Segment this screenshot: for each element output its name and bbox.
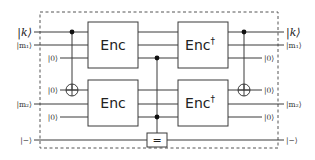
svg-text:|0⟩: |0⟩ <box>264 86 274 95</box>
control-dot <box>155 56 160 61</box>
svg-text:|0⟩: |0⟩ <box>48 113 58 122</box>
svg-text:|−⟩: |−⟩ <box>20 136 32 145</box>
svg-text:|m₂⟩: |m₂⟩ <box>286 100 302 109</box>
left-cnot <box>66 30 78 96</box>
equality-check: = <box>147 56 167 147</box>
enc-gate-top: Enc <box>88 22 138 68</box>
enc-dagger-gate-top: Enc† <box>178 22 228 68</box>
svg-text:Enc: Enc <box>100 37 125 53</box>
right-cnot <box>238 30 250 96</box>
quantum-circuit-diagram: Enc Enc = Enc† Enc† |k⟩ |m₁⟩ |0⟩ |0⟩ |m₂… <box>0 0 315 160</box>
svg-text:|m₁⟩: |m₁⟩ <box>286 41 302 50</box>
output-labels: |k⟩ |m₁⟩ |0⟩ |0⟩ |m₂⟩ |0⟩ |−⟩ <box>264 26 302 145</box>
svg-text:|0⟩: |0⟩ <box>264 113 274 122</box>
svg-text:|k⟩: |k⟩ <box>286 26 301 40</box>
svg-text:Enc: Enc <box>100 95 125 111</box>
control-dot <box>70 30 75 35</box>
enc-gate-bottom: Enc <box>88 80 138 126</box>
svg-text:|m₁⟩: |m₁⟩ <box>16 41 32 50</box>
svg-text:|m₂⟩: |m₂⟩ <box>16 100 32 109</box>
svg-text:|k⟩: |k⟩ <box>17 26 32 40</box>
enc-dagger-gate-bottom: Enc† <box>178 80 228 126</box>
svg-text:|0⟩: |0⟩ <box>48 54 58 63</box>
input-labels: |k⟩ |m₁⟩ |0⟩ |0⟩ |m₂⟩ |0⟩ |−⟩ <box>16 26 58 145</box>
svg-text:|0⟩: |0⟩ <box>264 54 274 63</box>
svg-text:|0⟩: |0⟩ <box>48 86 58 95</box>
control-dot <box>155 115 160 120</box>
svg-text:=: = <box>152 134 161 147</box>
control-dot <box>242 30 247 35</box>
svg-text:|−⟩: |−⟩ <box>286 136 298 145</box>
